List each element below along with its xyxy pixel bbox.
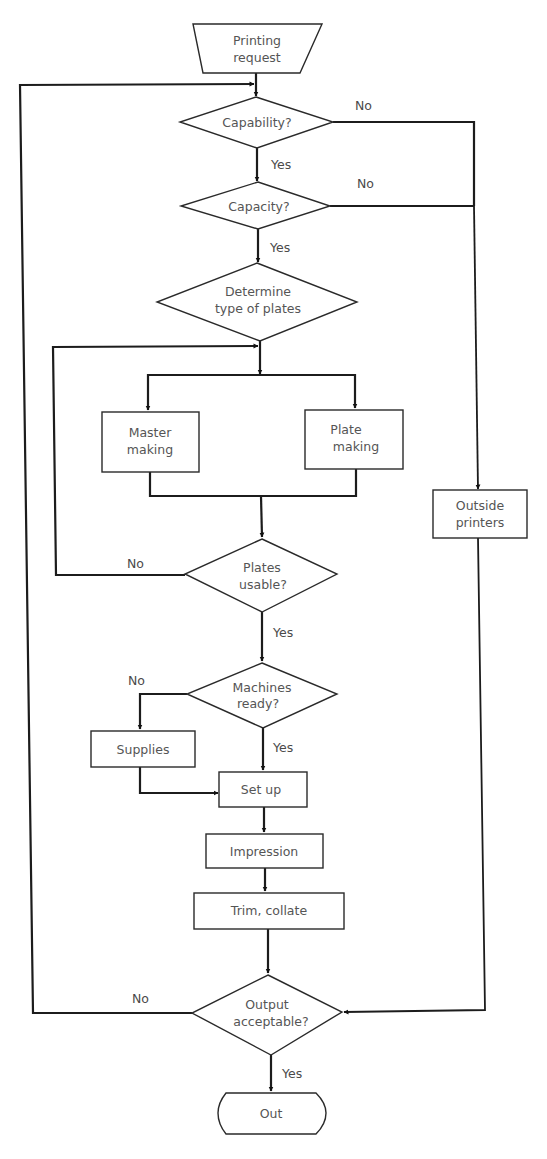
edge-capability-no xyxy=(333,122,474,206)
node-label: Master xyxy=(129,425,173,440)
node-label: Plate xyxy=(330,422,362,437)
node-label: acceptable? xyxy=(233,1014,308,1029)
edge-merge-down xyxy=(261,496,262,537)
node-label: Determine xyxy=(225,284,291,299)
process-master-making: Master making xyxy=(102,412,199,472)
trapezoid-shape xyxy=(193,24,322,73)
node-label: Capacity? xyxy=(228,199,289,214)
node-label: usable? xyxy=(239,577,287,592)
process-impression: Impression xyxy=(206,834,323,868)
label-capacity-yes: Yes xyxy=(269,240,290,255)
node-label: Set up xyxy=(241,782,281,797)
node-label: making xyxy=(127,442,173,457)
process-supplies: Supplies xyxy=(91,731,195,767)
edge-merge xyxy=(150,469,356,496)
edge-branch-master xyxy=(148,375,260,410)
node-label: Trim, collate xyxy=(230,903,308,918)
node-label: ready? xyxy=(237,696,279,711)
process-trim-collate: Trim, collate xyxy=(194,893,344,929)
edge-outside-output xyxy=(344,538,485,1012)
node-label: Out xyxy=(260,1106,283,1121)
diamond-shape xyxy=(185,539,337,612)
node-label: request xyxy=(233,50,281,65)
decision-machines-ready: Machines ready? xyxy=(187,663,337,728)
node-label: making xyxy=(333,439,379,454)
label-capability-yes: Yes xyxy=(270,157,291,172)
node-label: Output xyxy=(245,997,289,1012)
node-label: Capability? xyxy=(222,115,291,130)
node-label: Plates xyxy=(243,560,281,575)
edge-branch-plate xyxy=(260,375,355,408)
label-output-no: No xyxy=(132,991,149,1006)
terminal-out: Out xyxy=(218,1093,326,1134)
label-usable-yes: Yes xyxy=(272,625,293,640)
flowchart: Printing request Capability? Capacity? D… xyxy=(0,0,547,1159)
node-printing-request: Printing request xyxy=(193,24,322,73)
decision-capacity: Capacity? xyxy=(181,182,330,229)
label-usable-no: No xyxy=(127,556,144,571)
node-label: Outside xyxy=(456,498,505,513)
decision-capability: Capability? xyxy=(180,97,333,148)
label-output-yes: Yes xyxy=(281,1066,302,1081)
decision-determine-plates: Determine type of plates xyxy=(157,263,357,341)
node-label: Impression xyxy=(230,844,298,859)
process-plate-making: Plate making xyxy=(305,410,403,469)
label-capability-no: No xyxy=(355,98,372,113)
edge-supplies-setup xyxy=(140,767,218,793)
node-label: Printing xyxy=(233,33,281,48)
node-label: Machines xyxy=(233,680,292,695)
label-capacity-no: No xyxy=(357,176,374,191)
decision-plates-usable: Plates usable? xyxy=(185,539,337,612)
node-label: Supplies xyxy=(117,742,170,757)
process-outside-printers: Outside printers xyxy=(433,490,527,538)
edge-to-outside xyxy=(474,206,478,489)
edge-machines-no xyxy=(140,694,187,729)
decision-output-acceptable: Output acceptable? xyxy=(192,975,342,1055)
node-label: printers xyxy=(456,515,505,530)
process-set-up: Set up xyxy=(219,772,307,807)
node-label: type of plates xyxy=(215,301,301,316)
label-machines-no: No xyxy=(128,673,145,688)
label-machines-yes: Yes xyxy=(272,740,293,755)
